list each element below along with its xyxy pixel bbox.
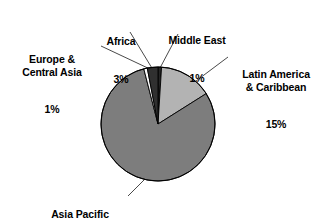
- pie-label-latin-america-caribbean-name: Latin America & Caribbean: [230, 68, 322, 93]
- pie-label-asia-pacific-name: Asia Pacific: [32, 208, 128, 221]
- pie-label-middle-east-value: 1%: [160, 72, 234, 85]
- pie-label-asia-pacific: Asia Pacific 79.7%: [32, 183, 128, 221]
- pie-chart-figure: Europe & Central Asia 1% Africa 3% Middl…: [0, 0, 324, 221]
- pie-label-latin-america-caribbean-value: 15%: [230, 118, 322, 131]
- pie-label-africa: Africa 3%: [92, 10, 150, 110]
- pie-label-europe-central-asia: Europe & Central Asia 1%: [4, 28, 100, 141]
- pie-label-latin-america-caribbean: Latin America & Caribbean 15%: [230, 43, 322, 156]
- leader-line-asia: [128, 178, 146, 196]
- pie-label-europe-central-asia-value: 1%: [4, 103, 100, 116]
- pie-label-middle-east: Middle East 1%: [160, 9, 234, 109]
- pie-label-africa-value: 3%: [92, 73, 150, 86]
- pie-label-europe-central-asia-name: Europe & Central Asia: [4, 53, 100, 78]
- pie-label-middle-east-name: Middle East: [160, 34, 234, 47]
- pie-label-africa-name: Africa: [92, 35, 150, 48]
